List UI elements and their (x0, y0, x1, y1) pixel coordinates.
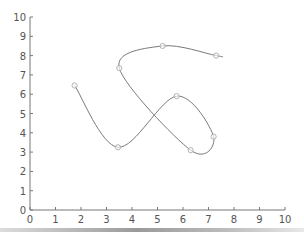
data-point-marker (188, 148, 193, 153)
x-tick-label: 1 (52, 214, 58, 225)
axes (30, 17, 285, 210)
data-point-marker (214, 53, 219, 58)
x-tick-label: 7 (205, 214, 211, 225)
line-chart: 012345678910 012345678910 (0, 0, 304, 239)
y-tick-label: 5 (20, 109, 26, 120)
x-tick-label: 9 (256, 214, 262, 225)
data-point-marker (211, 134, 216, 139)
data-point-marker (117, 66, 122, 71)
y-tick-label: 2 (20, 166, 26, 177)
y-tick-label: 9 (20, 31, 26, 42)
data-point-marker (115, 145, 120, 150)
x-tick-label: 5 (154, 214, 160, 225)
y-tick-label: 7 (20, 70, 26, 81)
x-tick-label: 0 (27, 214, 33, 225)
x-tick-label: 8 (231, 214, 237, 225)
y-tick-label: 8 (20, 51, 26, 62)
y-tick-label: 4 (20, 128, 26, 139)
data-point-marker (72, 83, 77, 88)
x-tick-label: 10 (279, 214, 292, 225)
data-markers (72, 43, 219, 152)
y-tick-label: 1 (20, 186, 26, 197)
x-tick-label: 3 (103, 214, 109, 225)
data-curve (75, 46, 223, 154)
bottom-divider (0, 228, 304, 232)
data-point-marker (160, 43, 165, 48)
x-tick-label: 2 (78, 214, 84, 225)
y-tick-label: 3 (20, 147, 26, 158)
data-point-marker (174, 94, 179, 99)
x-tick-label: 4 (129, 214, 135, 225)
x-tick-label: 6 (180, 214, 186, 225)
y-tick-label: 0 (20, 205, 26, 216)
y-tick-label: 10 (13, 12, 26, 23)
y-tick-label: 6 (20, 89, 26, 100)
